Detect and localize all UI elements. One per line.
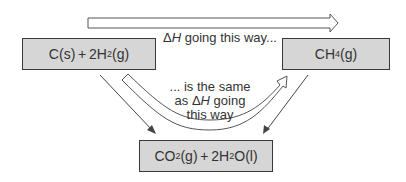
combustion-products-box: CO2(g) + 2H2O(l) <box>139 140 273 172</box>
right-thin-arrow-icon <box>266 75 308 131</box>
reactants-box: C(s) + 2H2(g) <box>22 38 156 70</box>
methane-box: CH4(g) <box>282 38 390 70</box>
top-delta-h-label: ΔH going this way... <box>140 31 300 45</box>
middle-label: ... is the same as ΔH going this way <box>160 80 260 122</box>
